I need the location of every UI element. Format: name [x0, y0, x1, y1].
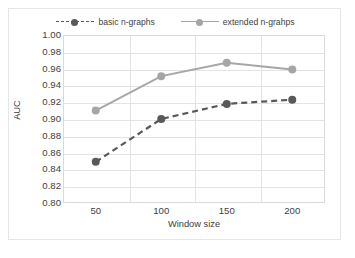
data-point-marker[interactable]: [223, 59, 231, 67]
y-axis-tick-label: 0.86: [13, 148, 61, 158]
x-axis-tick-label: 200: [272, 205, 312, 217]
series-line: [96, 100, 293, 162]
legend-label-extended-n-grahps: extended n-grahps: [223, 17, 295, 27]
legend-label-basic-n-graphs: basic n-graphs: [98, 17, 154, 27]
x-axis-tick-label: 100: [141, 205, 181, 217]
data-point-marker[interactable]: [288, 96, 296, 104]
series-line: [96, 63, 293, 111]
legend-key-solid-line-icon: [181, 17, 219, 27]
legend-key-dashed-line-icon: [56, 17, 94, 27]
y-axis-tick-label: 0.84: [13, 164, 61, 174]
x-axis-tick-label: 50: [76, 205, 116, 217]
legend-item-basic-n-graphs[interactable]: basic n-graphs: [56, 17, 154, 27]
legend-item-extended-n-grahps[interactable]: extended n-grahps: [181, 17, 295, 27]
y-axis-tick-label: 0.80: [13, 198, 61, 208]
x-axis-tick-label: 150: [207, 205, 247, 217]
y-axis-tick-label: 0.88: [13, 131, 61, 141]
x-axis-title: Window size: [63, 219, 325, 229]
y-axis-tick-label: 0.94: [13, 80, 61, 90]
data-point-marker[interactable]: [92, 158, 100, 166]
y-axis-tick-label: 0.96: [13, 64, 61, 74]
chart-data-layer: [63, 35, 325, 203]
chart-figure: basic n-graphs extended n-grahps 1.000.9…: [8, 8, 341, 240]
y-axis-tick-label: 0.82: [13, 181, 61, 191]
data-point-marker[interactable]: [288, 65, 296, 73]
data-point-marker[interactable]: [157, 72, 165, 80]
data-point-marker[interactable]: [92, 107, 100, 115]
y-axis-title: AUC: [12, 90, 22, 130]
y-axis-tick-label: 1.00: [13, 30, 61, 40]
data-point-marker[interactable]: [157, 115, 165, 123]
data-point-marker[interactable]: [223, 100, 231, 108]
y-axis-tick-label: 0.98: [13, 47, 61, 57]
x-axis-tick-labels: 50100150200: [63, 205, 325, 219]
